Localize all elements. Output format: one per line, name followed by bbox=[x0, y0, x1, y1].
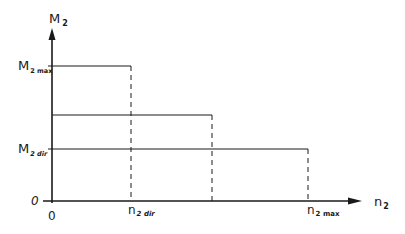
y-label-m2dir: M2 dir bbox=[18, 141, 48, 158]
x-label-n2max: n2 max bbox=[307, 203, 340, 218]
x-axis-title: n2 bbox=[374, 194, 389, 211]
torque-speed-diagram: M2 M2 max M2 dir 0 0 n2 dir n2 max n2 bbox=[0, 0, 405, 234]
y-axis-arrow-icon bbox=[49, 28, 56, 40]
y-axis-title: M2 bbox=[49, 11, 68, 28]
origin-x-label: 0 bbox=[48, 209, 56, 223]
x-axis-arrow-icon bbox=[348, 198, 362, 205]
origin-y-label: 0 bbox=[31, 194, 39, 208]
y-label-m2max: M2 max bbox=[18, 58, 53, 75]
x-label-n2dir: n2 dir bbox=[128, 203, 155, 218]
